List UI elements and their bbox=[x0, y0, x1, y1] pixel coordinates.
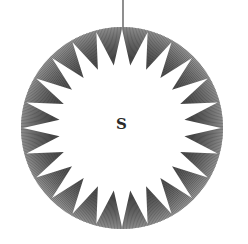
sun-star-figure bbox=[0, 0, 248, 244]
star-shape bbox=[23, 29, 221, 227]
